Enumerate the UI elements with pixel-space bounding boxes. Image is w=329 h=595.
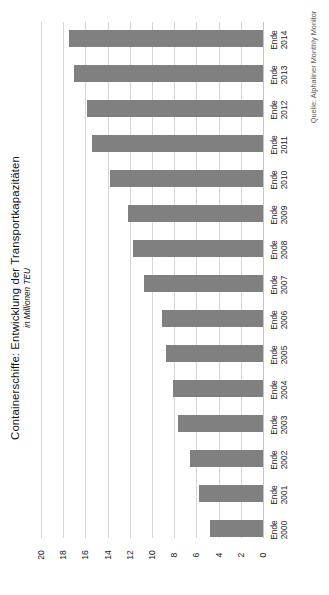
x-axis-tick-text: 0 — [258, 545, 268, 565]
bar — [87, 100, 263, 117]
category-label-rotated: Ende2003 — [266, 408, 292, 442]
x-axis-tick-label: 4 — [209, 540, 229, 570]
chart-figure: Containerschiffe: Entwicklung der Transp… — [0, 0, 329, 595]
plot-area — [41, 22, 263, 538]
category-label: Ende2012 — [264, 92, 294, 127]
category-label-line2: 2004 — [279, 380, 289, 399]
bar — [74, 65, 263, 82]
bar-row — [41, 267, 263, 302]
x-axis-tick-text: 12 — [125, 545, 135, 565]
category-label: Ende2001 — [264, 477, 294, 512]
category-label-line1: Ende — [269, 135, 279, 155]
x-axis-tick-label: 18 — [53, 540, 73, 570]
category-label: Ende2006 — [264, 302, 294, 337]
category-label-line1: Ende — [269, 205, 279, 225]
source-block: Quelle: Alphaliner Monthly Monitor — [297, 0, 329, 300]
category-label-line1: Ende — [269, 310, 279, 330]
bar-row — [41, 22, 263, 57]
x-axis-tick-labels: 20181614121086420 — [41, 540, 263, 580]
category-label-line2: 2013 — [279, 65, 289, 84]
category-label: Ende2010 — [264, 162, 294, 197]
bar-row — [41, 232, 263, 267]
category-label-line2: 2005 — [279, 345, 289, 364]
category-label: Ende2004 — [264, 372, 294, 407]
bar-row — [41, 57, 263, 92]
bar — [199, 485, 263, 502]
chart-subtitle: in Millionen TEU — [23, 268, 33, 328]
bar — [69, 30, 263, 47]
bar-row — [41, 92, 263, 127]
category-label-rotated: Ende2000 — [266, 513, 292, 547]
category-label-rotated: Ende2002 — [266, 443, 292, 477]
bar — [210, 520, 263, 537]
x-axis-tick-label: 12 — [120, 540, 140, 570]
bar — [162, 310, 263, 327]
source-note: Quelle: Alphaliner Monthly Monitor — [306, 0, 320, 152]
category-label: Ende2005 — [264, 337, 294, 372]
category-label-line2: 2001 — [279, 485, 289, 504]
page-title: Containerschiffe: Entwicklung der Transp… — [9, 156, 22, 440]
category-label: Ende2011 — [264, 127, 294, 162]
x-axis-tick-text: 18 — [58, 545, 68, 565]
x-axis-tick-label: 2 — [231, 540, 251, 570]
category-label-rotated: Ende2009 — [266, 198, 292, 232]
category-label-line2: 2011 — [279, 136, 289, 154]
category-label-line1: Ende — [269, 450, 279, 470]
category-label: Ende2009 — [264, 197, 294, 232]
category-label-line1: Ende — [269, 30, 279, 50]
category-label-line1: Ende — [269, 520, 279, 540]
x-axis-tick-text: 16 — [80, 545, 90, 565]
category-label-line2: 2009 — [279, 205, 289, 224]
category-label: Ende2008 — [264, 232, 294, 267]
category-label-line2: 2014 — [279, 30, 289, 49]
x-axis-tick-text: 10 — [147, 545, 157, 565]
bar-row — [41, 302, 263, 337]
x-axis-tick-label: 16 — [75, 540, 95, 570]
x-axis-tick-text: 20 — [36, 545, 46, 565]
x-axis-tick-text: 14 — [103, 545, 113, 565]
category-label-rotated: Ende2007 — [266, 268, 292, 302]
category-label-line1: Ende — [269, 240, 279, 260]
category-label: Ende2000 — [264, 512, 294, 547]
bar-row — [41, 407, 263, 442]
category-label-line1: Ende — [269, 65, 279, 85]
bar — [110, 170, 263, 187]
bar-row — [41, 197, 263, 232]
bar-row — [41, 442, 263, 477]
bar — [178, 415, 263, 432]
bar — [92, 135, 263, 152]
category-label: Ende2013 — [264, 57, 294, 92]
category-label-rotated: Ende2012 — [266, 93, 292, 127]
category-label-rotated: Ende2010 — [266, 163, 292, 197]
category-label-rotated: Ende2011 — [266, 128, 292, 162]
x-axis-tick-label: 10 — [142, 540, 162, 570]
category-label-rotated: Ende2004 — [266, 373, 292, 407]
bar-row — [41, 162, 263, 197]
bar — [133, 240, 263, 257]
x-axis-tick-text: 8 — [169, 545, 179, 565]
bar — [166, 345, 263, 362]
x-axis-tick-label: 8 — [164, 540, 184, 570]
bar — [128, 205, 263, 222]
x-axis-tick-label: 20 — [31, 540, 51, 570]
category-label-line2: 2008 — [279, 240, 289, 259]
category-label-line2: 2010 — [279, 170, 289, 189]
category-label-rotated: Ende2013 — [266, 58, 292, 92]
category-label-rotated: Ende2014 — [266, 23, 292, 57]
category-label-line2: 2002 — [279, 450, 289, 469]
category-label-line1: Ende — [269, 170, 279, 190]
category-label-line2: 2012 — [279, 100, 289, 119]
category-label: Ende2002 — [264, 442, 294, 477]
category-label-line1: Ende — [269, 485, 279, 505]
bar-row — [41, 477, 263, 512]
category-label-line2: 2000 — [279, 520, 289, 539]
category-label-line2: 2003 — [279, 415, 289, 434]
bar — [144, 275, 263, 292]
category-label: Ende2014 — [264, 22, 294, 57]
category-label-rotated: Ende2008 — [266, 233, 292, 267]
category-label-line2: 2006 — [279, 310, 289, 329]
x-axis-tick-text: 2 — [236, 545, 246, 565]
category-label-rotated: Ende2001 — [266, 478, 292, 512]
x-axis-tick-label: 14 — [98, 540, 118, 570]
category-label: Ende2007 — [264, 267, 294, 302]
